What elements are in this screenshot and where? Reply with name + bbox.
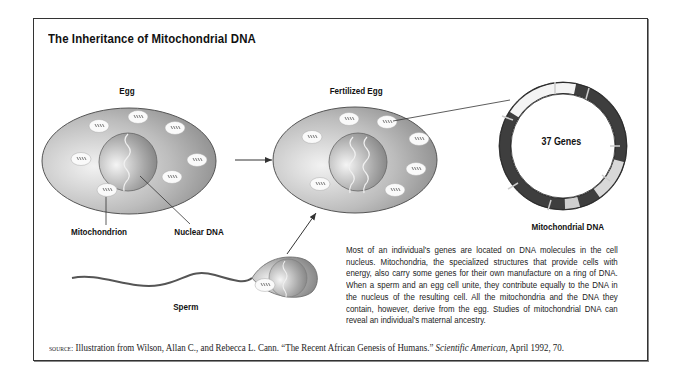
description-text: Most of an individual's genes are locate…: [346, 245, 618, 327]
source-suffix: April 1992, 70.: [508, 342, 564, 353]
sperm-cell: [72, 257, 317, 297]
source-citation: source: Illustration from Wilson, Allan …: [49, 342, 564, 353]
label-nuclear-dna: Nuclear DNA: [174, 226, 223, 237]
label-sperm: Sperm: [173, 301, 198, 312]
fertilized-egg-cell: [273, 107, 437, 213]
label-mitochondrion: Mitochondrion: [71, 226, 127, 237]
label-37-genes: 37 Genes: [542, 135, 582, 147]
source-prefix: source:: [49, 343, 73, 353]
source-journal: Scientific American,: [436, 342, 508, 353]
source-text: Illustration from Wilson, Allan C., and …: [73, 342, 435, 353]
label-egg: Egg: [119, 85, 134, 96]
egg-cell: [42, 108, 216, 214]
label-fertilized-egg: Fertilized Egg: [330, 85, 383, 96]
label-mitochondrial-dna: Mitochondrial DNA: [531, 221, 604, 232]
